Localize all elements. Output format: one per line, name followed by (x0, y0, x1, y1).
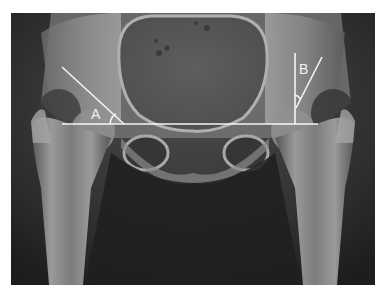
pelvic-inlet (119, 16, 267, 131)
angle-b-label: B (299, 62, 308, 76)
xray-image: A B (11, 13, 375, 285)
pelvis-radiograph (11, 13, 375, 285)
angle-a-label: A (91, 107, 100, 121)
